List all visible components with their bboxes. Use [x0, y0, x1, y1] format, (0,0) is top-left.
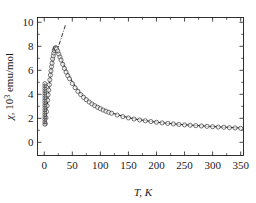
data-point-marker: [205, 124, 209, 128]
data-point-marker: [115, 113, 119, 117]
data-point-marker: [132, 117, 136, 121]
chart-background: [0, 0, 256, 203]
data-point-marker: [177, 122, 181, 126]
data-point-marker: [171, 122, 175, 126]
data-point-marker: [73, 86, 77, 90]
data-point-marker: [110, 111, 114, 115]
figure-container: 050100150200250300350 0246810 T, K χ, 10…: [0, 0, 256, 203]
data-point-marker: [121, 115, 125, 119]
data-point-marker: [233, 126, 237, 130]
data-point-marker: [48, 78, 52, 82]
susceptibility-chart: 050100150200250300350 0246810 T, K χ, 10…: [0, 0, 256, 203]
data-point-marker: [49, 69, 53, 73]
x-tick-label: 200: [148, 159, 165, 171]
y-tick-label: 4: [28, 88, 34, 100]
x-tick-label: 150: [120, 159, 137, 171]
data-point-marker: [182, 123, 186, 127]
data-point-marker: [227, 126, 231, 130]
x-tick-label: 100: [92, 159, 109, 171]
x-tick-label: 250: [176, 159, 193, 171]
data-point-marker: [59, 58, 63, 62]
x-tick-label: 300: [204, 159, 221, 171]
y-tick-label: 8: [28, 40, 34, 52]
data-point-marker: [50, 61, 54, 65]
data-point-marker: [211, 125, 215, 129]
data-point-marker: [194, 124, 198, 128]
y-tick-label: 0: [28, 136, 34, 148]
data-point-marker: [143, 119, 147, 123]
data-point-marker: [188, 123, 192, 127]
data-point-marker: [61, 62, 65, 66]
data-point-marker: [138, 118, 142, 122]
data-point-marker: [239, 126, 243, 130]
x-tick-label: 350: [232, 159, 249, 171]
y-tick-label: 2: [28, 112, 34, 124]
x-tick-label: 50: [67, 159, 79, 171]
data-point-marker: [222, 125, 226, 129]
data-point-marker: [160, 121, 164, 125]
x-tick-label: 0: [41, 159, 47, 171]
low-temperature-cluster-markers: [43, 82, 47, 127]
data-point-marker: [47, 83, 51, 87]
y-axis-title-text: χ, 103 emu/mol: [3, 53, 15, 121]
data-point-marker: [154, 120, 158, 124]
data-point-marker: [126, 116, 130, 120]
y-tick-label: 6: [28, 64, 34, 76]
y-tick-label: 10: [23, 16, 35, 28]
data-point-marker: [47, 88, 51, 92]
data-point-marker: [48, 73, 52, 77]
data-point-marker: [199, 124, 203, 128]
data-point-marker: [67, 77, 71, 81]
x-axis-title: T, K: [134, 186, 153, 198]
y-axis-title: χ, 103 emu/mol: [3, 53, 15, 121]
data-point-marker: [149, 119, 153, 123]
data-point-marker: [70, 81, 74, 85]
data-point-marker: [216, 125, 220, 129]
data-point-marker: [166, 121, 170, 125]
